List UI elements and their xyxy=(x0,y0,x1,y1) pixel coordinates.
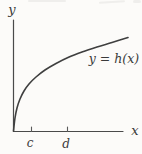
x-axis-label: x xyxy=(131,123,139,138)
y-axis-label: y xyxy=(7,2,16,17)
curve-equation-label: y = h(x) xyxy=(88,51,139,66)
tick-label-d: d xyxy=(62,137,70,151)
tick-label-c: c xyxy=(27,136,34,150)
function-graph-figure: y x c d y = h(x) xyxy=(0,0,142,154)
plot-canvas: y x c d y = h(x) xyxy=(0,0,142,154)
